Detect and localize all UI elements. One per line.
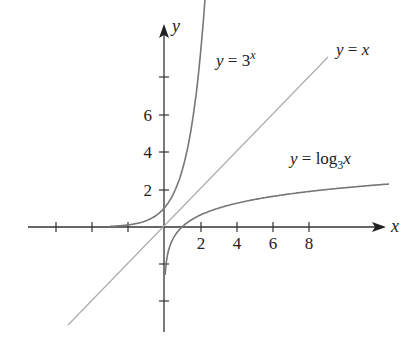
x-tick-labels: 2 4 6 8 [197, 234, 314, 253]
y-axis-label: y [170, 16, 180, 36]
log-label: y = log3x [288, 149, 351, 172]
x-axis-label: x [390, 216, 399, 236]
svg-text:4: 4 [144, 143, 153, 162]
identity-label: y = x [334, 40, 370, 59]
y-tick-labels: 2 4 6 [144, 106, 153, 200]
svg-text:2: 2 [197, 234, 206, 253]
svg-text:4: 4 [233, 234, 242, 253]
exp-label: y = 3x [214, 48, 256, 70]
svg-text:2: 2 [144, 181, 153, 200]
svg-text:6: 6 [144, 106, 153, 125]
svg-text:6: 6 [269, 234, 278, 253]
log-curve [165, 184, 389, 275]
svg-text:8: 8 [305, 234, 314, 253]
exp-curve [110, 0, 207, 226]
identity-line [68, 57, 328, 325]
graph: 2 4 6 8 2 4 6 x y y = 3x y = x y = log3x [0, 0, 415, 349]
